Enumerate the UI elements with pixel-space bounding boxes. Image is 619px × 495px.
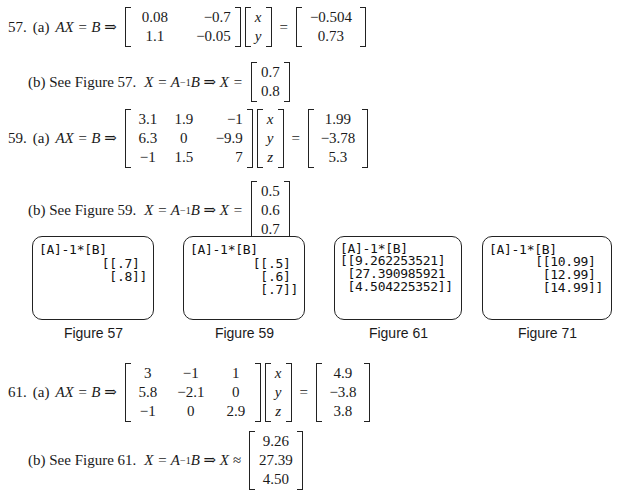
- part-label: (b) See Figure 57.: [28, 74, 136, 91]
- calculator-screen-61: [A]-1*[B] [[9.262253521] [27.390985921 […: [334, 236, 462, 320]
- problem-59-part-b: (b) See Figure 59. X = A−1B ⇒ X = 0.50.6…: [28, 178, 292, 242]
- result-vector: 0.50.60.7: [251, 181, 290, 240]
- vector-x: xy: [245, 7, 272, 47]
- figure-59-caption: Figure 59: [183, 325, 306, 341]
- vector-x: xyz: [257, 109, 284, 168]
- matrix-a: 3.16.3−1 1.901.5 −1−9.97: [125, 109, 253, 168]
- problem-61-part-a: 61. (a) AX = B ⇒ 35.8−1 −1−2.10 102.9 xy…: [8, 360, 372, 424]
- vector-b: 4.9−3.83.8: [316, 363, 370, 422]
- figure-71-caption: Figure 71: [482, 325, 613, 341]
- result-vector: 9.2627.394.50: [249, 431, 303, 490]
- vector-b: 1.99−3.785.3: [308, 109, 368, 168]
- matrix-a: 0.081.1 −0.7−0.05: [125, 7, 241, 47]
- problem-61-part-b: (b) See Figure 61. X = A−1B ⇒ X ≈ 9.2627…: [28, 428, 305, 492]
- calculator-screen-57: [A]-1*[B] [[.7] [.8]]: [32, 236, 154, 320]
- problem-number: 57.: [8, 19, 27, 36]
- figure-61-caption: Figure 61: [334, 325, 463, 341]
- vector-b: −0.5040.73: [296, 7, 366, 47]
- matrix-a: 35.8−1 −1−2.10 102.9: [125, 363, 261, 422]
- problem-57-part-b: (b) See Figure 57. X = A−1B ⇒ X = 0.70.8: [28, 60, 292, 104]
- problem-57-part-a: 57. (a) AX = B ⇒ 0.081.1 −0.7−0.05 xy = …: [8, 4, 368, 50]
- part-label: (a): [33, 19, 50, 36]
- calculator-screen-71: [A]-1*[B] [[10.99] [12.99] [14.99]]: [482, 236, 612, 320]
- equation-lhs: AX = B ⇒: [55, 18, 116, 36]
- figure-57-caption: Figure 57: [32, 325, 155, 341]
- problem-59-part-a: 59. (a) AX = B ⇒ 3.16.3−1 1.901.5 −1−9.9…: [8, 106, 370, 170]
- vector-x: xyz: [265, 363, 292, 422]
- calculator-screen-59: [A]-1*[B] [[.5] [.6] [.7]]: [183, 236, 305, 320]
- result-vector: 0.70.8: [251, 62, 290, 102]
